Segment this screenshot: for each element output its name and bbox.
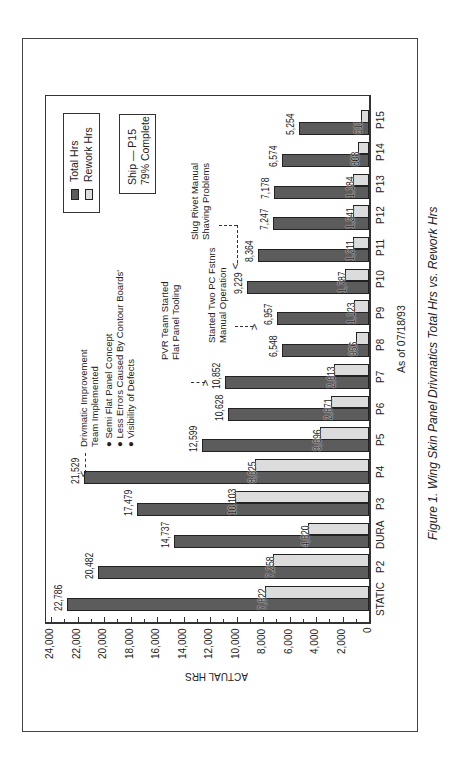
label-rework-p14: 808 bbox=[350, 151, 361, 165]
label-rework-p11: 1,211 bbox=[345, 240, 356, 261]
axis-tick bbox=[170, 619, 171, 623]
axis-tick bbox=[78, 617, 79, 623]
bar-rework-p5 bbox=[320, 427, 369, 440]
category-label-p5: P5 bbox=[376, 434, 386, 446]
bar-rework-p10 bbox=[345, 269, 369, 282]
axis-tick bbox=[131, 617, 132, 623]
axis-label: ACTUAL HRS bbox=[185, 671, 248, 682]
annotation-drivmatic: Drivmatic Improvement Team Implemented ●… bbox=[79, 270, 137, 447]
annotation-pc: Started Two PC Fstnrs Manual Operation bbox=[207, 248, 229, 343]
category-label-p3: P3 bbox=[376, 498, 386, 510]
annotation-pc-line2: Manual Operation bbox=[218, 248, 229, 343]
axis-tick bbox=[263, 617, 264, 623]
axis-tick-label: 14,000 bbox=[178, 629, 188, 660]
label-total-p10: 9,229 bbox=[233, 272, 244, 294]
status-box: Ship — P15 79% Complete bbox=[119, 114, 156, 194]
axis-tick-label: 10,000 bbox=[231, 629, 241, 660]
axis-tick-label: 20,000 bbox=[98, 629, 108, 660]
annotation-pvr-line2: Flat Panel Tooling bbox=[171, 281, 182, 360]
axis-tick bbox=[210, 617, 211, 623]
label-total-p7: 10,852 bbox=[211, 363, 222, 389]
status-line-2: 79% Complete bbox=[140, 116, 151, 185]
legend-swatch-total bbox=[71, 189, 79, 200]
axis-tick-label: 8,000 bbox=[257, 629, 267, 654]
category-label-p10: P10 bbox=[376, 270, 386, 288]
axis-tick bbox=[144, 619, 145, 623]
bar-total-p6 bbox=[228, 408, 369, 421]
legend-swatch-rework bbox=[85, 189, 93, 200]
category-label-p8: P8 bbox=[376, 339, 386, 351]
category-label-static: STATIC bbox=[376, 582, 386, 616]
label-rework-p7: 2,613 bbox=[326, 366, 337, 388]
legend-label-rework: Rework Hrs bbox=[83, 127, 94, 182]
bar-total-p10 bbox=[247, 281, 369, 294]
bar-total-static bbox=[67, 598, 369, 611]
axis-tick bbox=[51, 617, 52, 623]
label-rework-p6: 2,871 bbox=[323, 398, 334, 420]
label-rework-p2: 7,258 bbox=[265, 557, 276, 579]
label-rework-static: 7,822 bbox=[257, 588, 268, 610]
label-rework-p9: 1,123 bbox=[346, 303, 357, 325]
bar-rework-p2 bbox=[273, 554, 369, 567]
legend: Total Hrs Rework Hrs bbox=[63, 113, 100, 213]
axis-tick bbox=[91, 619, 92, 623]
bar-rework-p3 bbox=[235, 491, 369, 504]
bar-rework-p4 bbox=[255, 459, 369, 472]
bar-total-p4 bbox=[84, 471, 369, 484]
status-line-1: Ship — P15 bbox=[127, 129, 138, 185]
label-total-dura: 14,737 bbox=[160, 521, 171, 547]
label-rework-p3: 10,103 bbox=[227, 488, 238, 514]
axis-tick-label: 22,000 bbox=[72, 629, 82, 660]
axis-tick bbox=[316, 617, 317, 623]
bar-rework-dura bbox=[308, 523, 369, 536]
axis-tick-label: 4,000 bbox=[310, 629, 320, 654]
axis-tick-label: 6,000 bbox=[284, 629, 294, 654]
axis-tick bbox=[369, 617, 370, 623]
legend-label-total: Total Hrs bbox=[69, 141, 80, 182]
category-label-dura: DURA bbox=[376, 520, 386, 548]
bar-rework-static bbox=[265, 586, 369, 599]
label-total-p3: 17,479 bbox=[123, 489, 134, 515]
category-label-p15: P15 bbox=[376, 111, 386, 129]
axis-tick-label: 0 bbox=[363, 628, 373, 634]
category-label-p11: P11 bbox=[376, 239, 386, 256]
annotation-pvr: PVR Team Started Flat Panel Tooling bbox=[160, 281, 182, 360]
label-rework-p4: 8,625 bbox=[247, 462, 258, 484]
label-rework-p12: 1,241 bbox=[345, 208, 356, 230]
axis-tick bbox=[356, 619, 357, 623]
bar-total-p5 bbox=[202, 439, 369, 452]
label-rework-p13: 1,184 bbox=[345, 176, 356, 198]
arrow-icon: > bbox=[199, 380, 211, 386]
arrow-icon: > bbox=[248, 324, 260, 330]
axis-tick bbox=[64, 619, 65, 623]
category-label-p9: P9 bbox=[376, 307, 386, 319]
label-rework-p15: 611 bbox=[353, 120, 364, 134]
axis-tick bbox=[197, 619, 198, 623]
label-total-p8: 6,548 bbox=[268, 336, 279, 358]
axis-tick bbox=[223, 619, 224, 623]
axis-tick-label: 16,000 bbox=[151, 629, 161, 660]
axis-tick bbox=[184, 617, 185, 623]
annotation-slug-leader-a bbox=[219, 225, 237, 226]
axis-tick bbox=[343, 617, 344, 623]
label-total-static: 22,786 bbox=[53, 585, 64, 611]
label-total-p11: 8,364 bbox=[244, 240, 255, 262]
category-label-p4: P4 bbox=[376, 466, 386, 478]
bar-total-p3 bbox=[137, 503, 369, 516]
label-total-p5: 12,599 bbox=[188, 426, 199, 452]
label-total-p2: 20,482 bbox=[84, 553, 95, 579]
category-label-p13: P13 bbox=[376, 175, 386, 193]
axis-tick-label: 12,000 bbox=[204, 629, 214, 660]
bar-rework-p7 bbox=[334, 364, 369, 377]
axis-tick-label: 24,000 bbox=[45, 629, 55, 660]
category-label-p14: P14 bbox=[376, 143, 386, 161]
axis-tick bbox=[104, 617, 105, 623]
axis-tick bbox=[237, 617, 238, 623]
bar-total-p7 bbox=[225, 376, 369, 389]
arrow-icon: < bbox=[77, 471, 89, 477]
label-rework-p8: 956 bbox=[348, 342, 359, 356]
axis-tick bbox=[250, 619, 251, 623]
annotation-slug-line2: Shaving Problems bbox=[201, 163, 212, 240]
category-label-p2: P2 bbox=[376, 561, 386, 573]
axis-tick bbox=[117, 619, 118, 623]
